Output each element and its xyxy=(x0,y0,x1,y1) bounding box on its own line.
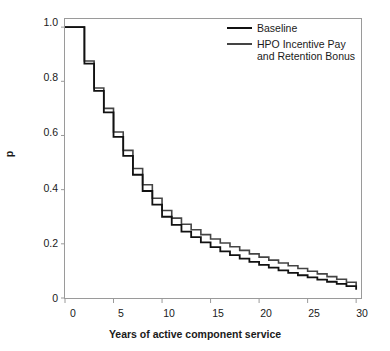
legend-label-hpo-line1: HPO Incentive Pay xyxy=(257,38,346,51)
x-tick-label-0: 0 xyxy=(70,307,76,319)
y-tick-label-0: 0 xyxy=(20,292,58,304)
y-tick-label-0.6: 0.6 xyxy=(20,126,58,138)
series-line-baseline xyxy=(65,27,356,290)
legend-label-hpo-line2: and Retention Bonus xyxy=(257,50,355,63)
x-tick-label-20: 20 xyxy=(260,307,272,319)
chart-figure: 1.0 0.8 0.6 0.4 0.2 0 0 5 10 15 20 25 30… xyxy=(0,0,390,351)
x-tick-label-10: 10 xyxy=(163,307,175,319)
x-tick-label-15: 15 xyxy=(212,307,224,319)
y-tick-label-0.2: 0.2 xyxy=(20,237,58,249)
y-tick-label-0.4: 0.4 xyxy=(20,182,58,194)
y-tick-label-0.8: 0.8 xyxy=(20,71,58,83)
y-axis-title: p xyxy=(3,151,15,157)
y-tick-label-1.0: 1.0 xyxy=(20,16,58,28)
x-tick-label-25: 25 xyxy=(308,307,320,319)
x-tick-label-30: 30 xyxy=(356,307,368,319)
x-axis-title: Years of active component service xyxy=(0,328,390,340)
legend-label-baseline: Baseline xyxy=(257,22,297,35)
x-tick-label-5: 5 xyxy=(118,307,124,319)
